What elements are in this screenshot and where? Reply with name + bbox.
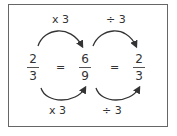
arrow-bottom-right [96,88,139,100]
fraction-3: 2 3 [133,52,145,83]
fraction-1: 2 3 [27,52,39,83]
arrow-top-left [38,31,82,46]
equals-2: = [110,61,119,74]
fraction-2: 6 9 [79,52,91,83]
op-bottom-left: x 3 [49,104,66,117]
op-top-left: x 3 [52,13,69,26]
arrow-top-right [93,31,136,46]
op-top-right: ÷ 3 [106,13,126,26]
arrow-bottom-left [41,88,85,100]
op-bottom-right: ÷ 3 [102,104,122,117]
equals-1: = [56,61,65,74]
